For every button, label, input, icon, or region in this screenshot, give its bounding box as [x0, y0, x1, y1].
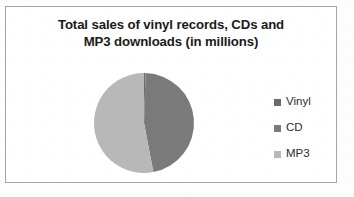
- legend-label-vinyl: Vinyl: [286, 95, 311, 108]
- legend-swatch-vinyl-icon: [274, 99, 281, 106]
- pie-slice-cd[interactable]: [144, 73, 194, 172]
- legend-item-mp3[interactable]: MP3: [274, 143, 336, 164]
- pie-slice-group: [94, 73, 194, 173]
- chart-container: Total sales of vinyl records, CDs and MP…: [5, 6, 337, 183]
- legend-item-cd[interactable]: CD: [274, 117, 336, 138]
- legend-label-mp3: MP3: [286, 147, 310, 160]
- chart-legend: Vinyl CD MP3: [274, 91, 336, 169]
- legend-item-vinyl[interactable]: Vinyl: [274, 91, 336, 112]
- pie-chart: [84, 63, 204, 183]
- legend-swatch-cd-icon: [274, 125, 281, 132]
- legend-swatch-mp3-icon: [274, 151, 281, 158]
- legend-label-cd: CD: [286, 121, 303, 134]
